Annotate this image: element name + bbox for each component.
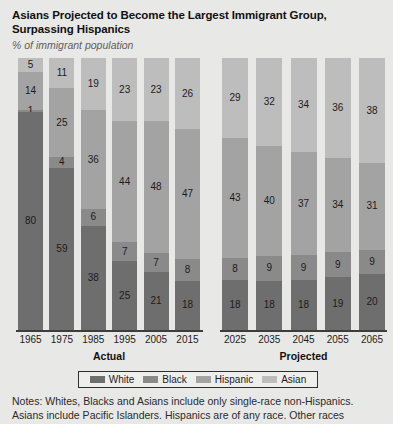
- bar-segment-black[interactable]: 9: [325, 252, 351, 277]
- bar-2035[interactable]: 3240918: [256, 58, 282, 330]
- bar-value-label: 43: [229, 193, 240, 203]
- bar-segment-asian[interactable]: 38: [359, 58, 385, 163]
- bar-value-label: 18: [264, 300, 275, 310]
- chart-subtitle: % of immigrant population: [12, 39, 381, 51]
- bar-segment-asian[interactable]: 5: [18, 58, 43, 72]
- bar-value-label: 34: [298, 100, 309, 110]
- x-tick-1965: 1965: [18, 334, 43, 346]
- bar-2025[interactable]: 2943818: [222, 58, 248, 330]
- x-tick-2025: 2025: [222, 334, 248, 346]
- bar-1965[interactable]: 514180: [18, 58, 43, 330]
- legend-label: Hispanic: [215, 374, 253, 385]
- title-line-1: Asians Projected to Become the Largest I…: [12, 9, 327, 21]
- bar-segment-white[interactable]: 25: [112, 261, 137, 330]
- legend-item-black[interactable]: Black: [143, 374, 186, 385]
- bar-segment-white[interactable]: 20: [359, 274, 385, 330]
- bar-value-label: 8: [232, 264, 238, 274]
- bar-value-label: 44: [119, 177, 130, 187]
- bar-segment-black[interactable]: 4: [49, 157, 74, 168]
- bar-segment-black[interactable]: 9: [359, 250, 385, 275]
- legend-item-hispanic[interactable]: Hispanic: [196, 374, 253, 385]
- legend-swatch-icon: [90, 376, 105, 383]
- bar-segment-black[interactable]: 6: [81, 209, 106, 225]
- x-axis-tick-labels: 196519751985199520052015 202520352045205…: [0, 334, 393, 348]
- bar-segment-hispanic[interactable]: 47: [175, 129, 200, 258]
- bar-value-label: 25: [56, 118, 67, 128]
- bar-segment-hispanic[interactable]: 36: [81, 110, 106, 209]
- bar-segment-hispanic[interactable]: 43: [222, 138, 248, 257]
- bar-value-label: 21: [151, 296, 162, 306]
- bar-value-label: 7: [122, 247, 128, 257]
- bar-segment-hispanic[interactable]: 44: [112, 121, 137, 242]
- bar-segment-white[interactable]: 18: [175, 281, 200, 330]
- bar-2045[interactable]: 3437918: [291, 58, 317, 330]
- bar-segment-asian[interactable]: 19: [81, 58, 106, 110]
- bar-segment-black[interactable]: 8: [175, 259, 200, 281]
- bar-segment-hispanic[interactable]: 34: [325, 158, 351, 252]
- plot-area: 5141801125459193663823447252348721264781…: [0, 58, 393, 330]
- x-tick-1985: 1985: [81, 334, 106, 346]
- bar-value-label: 38: [366, 106, 377, 116]
- bar-segment-white[interactable]: 80: [18, 112, 43, 330]
- bar-segment-white[interactable]: 18: [291, 280, 317, 330]
- chart-header: Asians Projected to Become the Largest I…: [0, 0, 393, 51]
- panel-actual: 5141801125459193663823447252348721264781…: [18, 58, 200, 330]
- bar-segment-asian[interactable]: 36: [325, 58, 351, 158]
- bar-segment-asian[interactable]: 34: [291, 58, 317, 152]
- bar-segment-white[interactable]: 21: [144, 272, 169, 330]
- bar-2015[interactable]: 2647818: [175, 58, 200, 330]
- bar-2065[interactable]: 3831920: [359, 58, 385, 330]
- bar-segment-hispanic[interactable]: 40: [256, 146, 282, 256]
- bar-segment-black[interactable]: 7: [144, 253, 169, 272]
- bar-value-label: 9: [369, 257, 375, 267]
- bar-value-label: 59: [56, 244, 67, 254]
- bar-segment-white[interactable]: 18: [256, 281, 282, 330]
- bar-value-label: 47: [182, 189, 193, 199]
- bar-value-label: 38: [88, 273, 99, 283]
- bar-segment-hispanic[interactable]: 14: [18, 72, 43, 110]
- axis-baselines: [0, 330, 393, 332]
- bar-segment-hispanic[interactable]: 48: [144, 121, 169, 253]
- bar-1985[interactable]: 1936638: [81, 58, 106, 330]
- bar-value-label: 9: [335, 260, 341, 270]
- bar-value-label: 40: [264, 196, 275, 206]
- legend-label: White: [109, 374, 135, 385]
- panel-labels: Actual Projected: [0, 350, 393, 364]
- x-tick-1975: 1975: [49, 334, 74, 346]
- bar-segment-black[interactable]: 7: [112, 242, 137, 261]
- bar-value-label: 36: [88, 155, 99, 165]
- bar-segment-white[interactable]: 18: [222, 280, 248, 330]
- bar-segment-asian[interactable]: 29: [222, 58, 248, 138]
- x-tick-2035: 2035: [256, 334, 282, 346]
- x-tick-2055: 2055: [325, 334, 351, 346]
- bar-segment-white[interactable]: 19: [325, 277, 351, 330]
- bar-value-label: 7: [153, 258, 159, 268]
- bar-segment-black[interactable]: 8: [222, 258, 248, 280]
- bar-1975[interactable]: 1125459: [49, 58, 74, 330]
- bar-segment-black[interactable]: 9: [256, 256, 282, 281]
- bar-2005[interactable]: 2348721: [144, 58, 169, 330]
- bar-segment-white[interactable]: 38: [81, 226, 106, 330]
- bar-value-label: 36: [332, 103, 343, 113]
- bar-segment-hispanic[interactable]: 31: [359, 163, 385, 249]
- bar-value-label: 6: [91, 212, 97, 222]
- bar-segment-asian[interactable]: 26: [175, 58, 200, 129]
- bar-segment-asian[interactable]: 23: [144, 58, 169, 121]
- bar-value-label: 18: [182, 300, 193, 310]
- legend-item-white[interactable]: White: [90, 374, 135, 385]
- legend-item-asian[interactable]: Asian: [262, 374, 306, 385]
- bar-segment-hispanic[interactable]: 25: [49, 88, 74, 157]
- bar-segment-white[interactable]: 59: [49, 168, 74, 330]
- bar-segment-black[interactable]: 9: [291, 255, 317, 280]
- bar-2055[interactable]: 3634919: [325, 58, 351, 330]
- bar-segment-asian[interactable]: 32: [256, 58, 282, 146]
- bar-segment-asian[interactable]: 23: [112, 58, 137, 121]
- page-title: Asians Projected to Become the Largest I…: [12, 8, 381, 36]
- bar-value-label: 34: [332, 200, 343, 210]
- bar-value-label: 37: [298, 199, 309, 209]
- bar-segment-asian[interactable]: 11: [49, 58, 74, 88]
- bar-value-label: 80: [25, 216, 36, 226]
- bar-1995[interactable]: 2344725: [112, 58, 137, 330]
- panel-label-actual: Actual: [18, 350, 200, 362]
- bar-segment-hispanic[interactable]: 37: [291, 152, 317, 255]
